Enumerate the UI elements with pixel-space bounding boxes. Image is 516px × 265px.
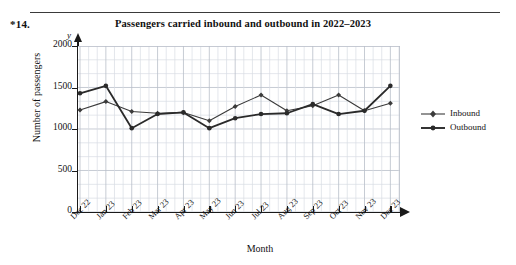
data-point bbox=[310, 102, 315, 107]
chart-title: Passengers carried inbound and outbound … bbox=[78, 18, 408, 29]
data-point bbox=[155, 112, 160, 117]
header-divider bbox=[30, 12, 500, 13]
data-point bbox=[129, 126, 134, 131]
data-point bbox=[259, 112, 264, 117]
data-point bbox=[129, 109, 134, 114]
data-point bbox=[78, 107, 83, 112]
legend-marker-inbound-icon bbox=[420, 109, 446, 119]
y-axis-arrow-icon bbox=[74, 33, 82, 42]
x-axis-title: Month bbox=[200, 243, 320, 254]
data-point bbox=[104, 84, 109, 89]
question-number: *14. bbox=[10, 18, 30, 30]
legend-label-outbound: Outbound bbox=[450, 121, 486, 134]
data-point bbox=[259, 92, 264, 97]
data-point bbox=[207, 118, 212, 123]
data-point bbox=[336, 92, 341, 97]
y-tick-mark bbox=[72, 129, 78, 130]
data-point bbox=[362, 108, 367, 113]
data-point bbox=[207, 126, 212, 131]
y-tick-mark bbox=[72, 171, 78, 172]
data-point bbox=[233, 104, 238, 109]
legend-item-outbound: Outbound bbox=[420, 121, 512, 135]
data-point bbox=[388, 101, 393, 106]
chart-legend: Inbound Outbound bbox=[420, 107, 512, 135]
data-point bbox=[388, 84, 393, 89]
data-point bbox=[103, 99, 108, 104]
data-point bbox=[78, 91, 83, 96]
x-axis-arrow-icon bbox=[400, 207, 410, 217]
y-tick-mark bbox=[72, 88, 78, 89]
legend-item-inbound: Inbound bbox=[420, 107, 512, 121]
y-tick-label: 0 bbox=[26, 206, 72, 216]
worksheet-page: *14. Passengers carried inbound and outb… bbox=[0, 0, 516, 265]
plot-area bbox=[78, 46, 400, 212]
y-axis-title: Number of passengers bbox=[31, 23, 42, 173]
legend-marker-outbound-icon bbox=[420, 123, 446, 133]
data-series-layer bbox=[78, 46, 400, 212]
data-point bbox=[181, 110, 186, 115]
y-tick-mark bbox=[72, 46, 78, 47]
data-point bbox=[336, 112, 341, 117]
question-number-text: *14. bbox=[10, 18, 30, 30]
legend-label-inbound: Inbound bbox=[450, 107, 480, 120]
data-point bbox=[285, 111, 290, 116]
data-point bbox=[233, 116, 238, 121]
